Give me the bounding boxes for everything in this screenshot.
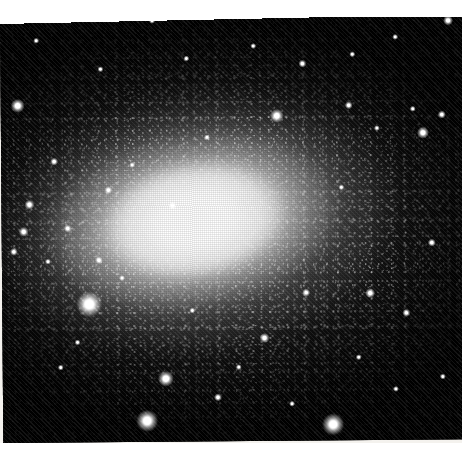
scan-margin-right [462,0,476,459]
photographic-grain-highlight [0,12,465,443]
photographic-plate [0,12,465,443]
plate-scan-page [0,0,476,459]
plate-image-area [0,12,465,443]
scan-margin-top-edge [0,14,476,24]
scan-margin-bottom [0,443,476,459]
